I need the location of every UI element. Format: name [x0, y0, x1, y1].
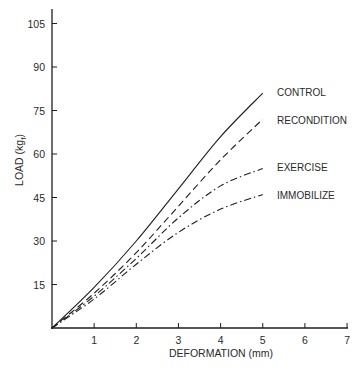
y-tick-label: 90 [33, 61, 45, 73]
x-tick-label: 2 [133, 334, 139, 346]
x-tick-label: 4 [218, 334, 224, 346]
series-label-immobilize: IMMOBILIZE [277, 190, 335, 201]
series-labels: CONTROLRECONDITIONEXERCISEIMMOBILIZE [277, 87, 347, 201]
y-tick-label: 45 [33, 192, 45, 204]
y-axis-label: LOAD (kgf) [13, 134, 28, 186]
curve-recondition [52, 119, 263, 328]
y-tick-label: 105 [27, 18, 45, 30]
curve-exercise [52, 169, 263, 329]
curve-control [52, 93, 263, 328]
y-tick-label: 75 [33, 105, 45, 117]
series-label-exercise: EXERCISE [277, 162, 328, 173]
x-tick-label: 5 [260, 334, 266, 346]
y-tick-label: 60 [33, 148, 45, 160]
load-deformation-chart: 1234567153045607590105 CONTROLRECONDITIO… [0, 0, 361, 369]
axes: 1234567153045607590105 [27, 9, 350, 346]
x-tick-label: 1 [91, 334, 97, 346]
curves [52, 93, 263, 328]
x-tick-label: 6 [302, 334, 308, 346]
y-tick-label: 15 [33, 279, 45, 291]
x-tick-label: 7 [344, 334, 350, 346]
series-label-control: CONTROL [277, 87, 326, 98]
x-tick-label: 3 [176, 334, 182, 346]
series-label-recondition: RECONDITION [277, 115, 347, 126]
x-axis-label: DEFORMATION (mm) [169, 347, 273, 359]
y-tick-label: 30 [33, 235, 45, 247]
